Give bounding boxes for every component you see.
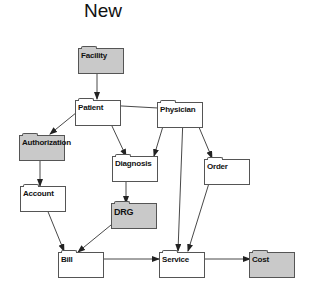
folder-tab-icon [61,250,77,253]
folder-tab-icon [252,250,268,253]
node-patient[interactable]: Patient [75,100,121,126]
node-cost[interactable]: Cost [249,252,295,278]
folder-tab-icon [160,100,176,103]
node-facility[interactable]: Facility [78,48,124,74]
folder-tab-icon [23,184,39,187]
edge-physician-service [178,117,183,251]
node-service[interactable]: Service [159,252,205,278]
folder-tab-icon [22,133,38,136]
node-order[interactable]: Order [204,159,250,185]
folder-tab-icon [115,154,131,157]
node-drg[interactable]: DRG [111,203,157,229]
node-label: DRG [114,207,133,217]
node-label: Authorization [22,138,71,147]
node-label: Physician [160,105,196,114]
folder-tab-icon [207,157,223,160]
folder-tab-icon [78,98,94,101]
node-label: Cost [252,255,269,264]
folder-tab-icon [81,46,97,49]
node-diagnosis[interactable]: Diagnosis [112,156,158,182]
node-authorization[interactable]: Authorization [19,135,65,161]
node-label: Account [23,189,54,198]
node-label: Service [162,255,189,264]
node-bill[interactable]: Bill [58,252,104,278]
folder-tab-icon [162,250,178,253]
node-label: Diagnosis [115,159,151,168]
node-label: Order [207,162,228,171]
node-physician[interactable]: Physician [157,102,203,128]
node-label: Bill [61,255,73,264]
node-label: Facility [81,51,107,60]
node-account[interactable]: Account [20,186,66,212]
folder-tab-icon [114,201,130,204]
node-label: Patient [78,103,103,112]
